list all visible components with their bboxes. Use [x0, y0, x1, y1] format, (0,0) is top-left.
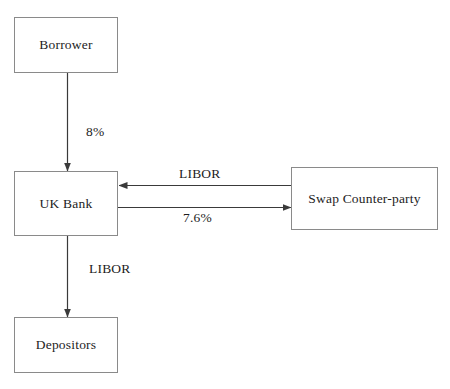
- node-uk-bank-label: UK Bank: [40, 196, 93, 212]
- edge-label-uk-bank-to-depositors: LIBOR: [86, 261, 134, 277]
- node-borrower[interactable]: Borrower: [14, 17, 118, 73]
- edge-label-uk-bank-to-swap: 7.6%: [180, 210, 215, 226]
- node-uk-bank[interactable]: UK Bank: [14, 171, 118, 236]
- node-depositors-label: Depositors: [36, 337, 97, 353]
- edge-label-borrower-to-uk-bank: 8%: [83, 124, 107, 140]
- edge-label-swap-to-uk-bank: LIBOR: [176, 166, 224, 182]
- node-swap-counterparty-label: Swap Counter-party: [308, 191, 420, 207]
- diagram-canvas: Borrower UK Bank Depositors Swap Counter…: [0, 0, 450, 389]
- node-borrower-label: Borrower: [39, 37, 92, 53]
- node-depositors[interactable]: Depositors: [14, 317, 118, 373]
- node-swap-counterparty[interactable]: Swap Counter-party: [291, 167, 438, 230]
